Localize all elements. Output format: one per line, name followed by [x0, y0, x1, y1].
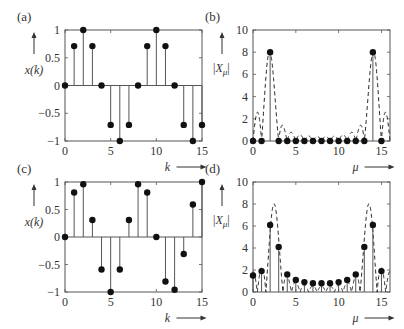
x-tick-label: 0: [250, 144, 256, 158]
x-tick-label: 5: [293, 144, 299, 158]
y-tick-label: 2: [242, 263, 248, 277]
stem-marker: [117, 138, 123, 144]
stem-marker: [144, 43, 150, 49]
x-axis-label: k: [165, 160, 171, 174]
y-tick-label: 1: [54, 23, 60, 37]
y-tick-label: 2: [242, 112, 248, 126]
stem-marker: [135, 82, 141, 88]
stem-marker: [378, 268, 384, 274]
stem-marker: [181, 122, 187, 128]
stem-marker: [378, 138, 384, 144]
stem-marker: [353, 138, 359, 144]
stem-marker: [181, 251, 187, 257]
stem-marker: [153, 27, 159, 33]
y-axis-label: x(k): [24, 215, 44, 229]
stem-marker: [162, 278, 168, 284]
stem-marker: [301, 279, 307, 285]
y-tick-label: −0.5: [38, 106, 60, 120]
y-tick-label: 10: [236, 175, 248, 189]
y-axis-label: |Xμ|: [213, 61, 230, 77]
panel-label: (c): [17, 161, 31, 176]
stem-marker: [117, 266, 123, 272]
stem-marker: [293, 138, 299, 144]
stem-marker: [80, 181, 86, 187]
stem-marker: [361, 244, 367, 250]
stem-marker: [171, 287, 177, 293]
stem-marker: [370, 49, 376, 55]
stem-marker: [199, 122, 205, 128]
stem-marker: [171, 82, 177, 88]
y-tick-label: 8: [242, 197, 248, 211]
stem-marker: [335, 138, 341, 144]
x-tick-label: 15: [375, 295, 387, 309]
stem-marker: [199, 179, 205, 185]
interpolated-spectrum-line: [253, 52, 390, 141]
y-axis-label: |Xμ|: [213, 213, 230, 229]
stem-marker: [71, 43, 77, 49]
stem-marker: [80, 27, 86, 33]
axes-frame: [253, 182, 390, 292]
x-tick-label: 5: [293, 295, 299, 309]
stem-marker: [62, 82, 68, 88]
stem-marker: [361, 138, 367, 144]
stem-marker: [293, 277, 299, 283]
y-tick-label: −1: [47, 285, 60, 299]
y-tick-label: −1: [47, 134, 60, 148]
stem-marker: [370, 222, 376, 228]
y-tick-label: 10: [236, 23, 248, 37]
panel-d: 0510150246810(d)|Xμ|μ: [205, 161, 395, 325]
stem-marker: [126, 217, 132, 223]
stem-marker: [284, 271, 290, 277]
stem-marker: [275, 244, 281, 250]
y-tick-label: −0.5: [38, 258, 60, 272]
stem-marker: [344, 277, 350, 283]
stem-marker: [250, 272, 256, 278]
panel-label: (d): [205, 161, 220, 176]
stem-marker: [98, 82, 104, 88]
stem-marker: [89, 43, 95, 49]
stem-marker: [62, 234, 68, 240]
y-tick-label: 0.5: [45, 51, 60, 65]
stem-marker: [353, 271, 359, 277]
stem-marker: [250, 138, 256, 144]
x-tick-label: 0: [62, 295, 68, 309]
y-tick-label: 0: [242, 134, 248, 148]
y-tick-label: 4: [242, 241, 248, 255]
stem-marker: [107, 122, 113, 128]
y-axis-label: x(k): [24, 63, 44, 77]
figure: 051015−1−0.500.51(a)x(k)k0510150246810(b…: [0, 0, 404, 329]
stem-marker: [71, 189, 77, 195]
stem-marker: [135, 181, 141, 187]
stem-marker: [267, 222, 273, 228]
x-tick-label: 0: [62, 144, 68, 158]
y-tick-label: 6: [242, 219, 248, 233]
y-tick-label: 8: [242, 45, 248, 59]
y-tick-label: 1: [54, 175, 60, 189]
stem-marker: [89, 217, 95, 223]
panel-label: (b): [205, 9, 220, 24]
stem-marker: [190, 201, 196, 207]
stem-marker: [144, 189, 150, 195]
x-tick-label: 15: [196, 144, 208, 158]
stem-marker: [301, 138, 307, 144]
stem-marker: [310, 280, 316, 286]
y-tick-label: 0: [54, 79, 60, 93]
stem-marker: [344, 138, 350, 144]
panel-label: (a): [17, 9, 31, 24]
stem-marker: [190, 138, 196, 144]
x-tick-label: 10: [150, 144, 162, 158]
stem-marker: [162, 43, 168, 49]
y-tick-label: 0: [242, 285, 248, 299]
y-tick-label: 4: [242, 90, 248, 104]
stem-marker: [275, 138, 281, 144]
x-tick-label: 15: [196, 295, 208, 309]
panel-c: 051015−1−0.500.51(c)x(k)k: [17, 161, 208, 325]
stem-marker: [318, 138, 324, 144]
stem-marker: [267, 49, 273, 55]
stem-marker: [318, 280, 324, 286]
panel-b: 0510150246810(b)|Xμ|μ: [205, 9, 395, 174]
x-axis-label: μ: [351, 311, 358, 325]
panel-a: 051015−1−0.500.51(a)x(k)k: [17, 9, 208, 174]
stem-marker: [327, 138, 333, 144]
x-tick-label: 10: [333, 295, 345, 309]
